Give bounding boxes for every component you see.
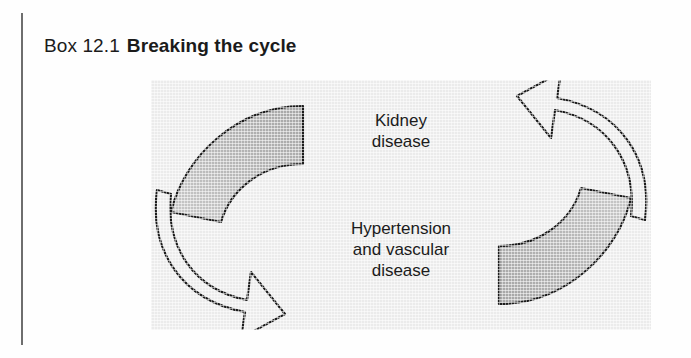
label-hypertension-line2: and vascular (313, 239, 489, 260)
right-arrow (499, 80, 646, 304)
left-arrow-shaded-band (171, 106, 303, 222)
box-number: Box 12.1 (44, 35, 120, 56)
label-hypertension-line1: Hypertension (313, 218, 489, 239)
left-arrow (156, 106, 303, 330)
label-kidney-line2: disease (339, 131, 463, 152)
page-margin-rule (21, 13, 23, 345)
right-arrow-shaded-band (499, 188, 631, 304)
figure-panel: Kidney disease Hypertension and vascular… (151, 80, 651, 330)
label-hypertension-line3: disease (313, 260, 489, 281)
box-title: Breaking the cycle (127, 35, 297, 56)
label-kidney-disease: Kidney disease (339, 110, 463, 152)
label-hypertension-vascular-disease: Hypertension and vascular disease (313, 218, 489, 281)
label-kidney-line1: Kidney (339, 110, 463, 131)
figure-page: Box 12.1Breaking the cycle (0, 0, 691, 358)
box-caption: Box 12.1Breaking the cycle (44, 34, 297, 58)
